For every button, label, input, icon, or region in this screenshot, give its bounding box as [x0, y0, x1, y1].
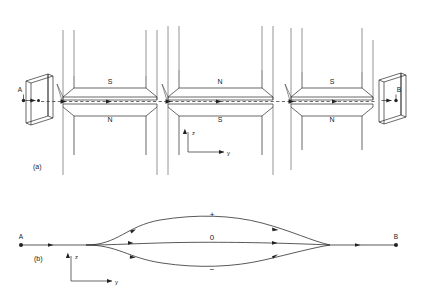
detector-plate-b: [379, 73, 406, 124]
panel-b-start-label: A: [19, 233, 24, 240]
magnet-1-bottom-pole-label: N: [107, 116, 112, 123]
panel-a-detector-label: B: [397, 86, 401, 93]
magnet-2-top-pole-label: N: [217, 78, 222, 85]
panel-b-label-plus: +: [210, 210, 215, 219]
figure-svg: A S N: [0, 0, 422, 296]
panel-b-trajectory-plus: [86, 216, 330, 245]
panel-b-trajectory-minus: [86, 245, 330, 266]
panel-b-axis-y-label: y: [115, 279, 118, 285]
panel-a-caption: (a): [33, 163, 42, 171]
panel-b-trajectory-zero: [86, 241, 330, 245]
panel-a-source-label: A: [18, 86, 23, 93]
panel-b-caption: (b): [34, 255, 43, 263]
panel-a-axis-z-label: z: [192, 130, 195, 136]
figure-root: A S N: [0, 0, 422, 296]
panel-b-group: A B +: [19, 210, 398, 285]
magnet-2-bottom-pole-label: S: [218, 116, 223, 123]
panel-b-end-label: B: [394, 233, 398, 240]
magnet-3-top-pole-label: S: [330, 78, 335, 85]
panel-b-label-minus: −: [210, 265, 215, 274]
panel-a-group: A S N: [18, 26, 406, 175]
panel-b-label-zero: 0: [210, 233, 215, 242]
magnet-3: [285, 28, 373, 170]
magnet-1-top-pole-label: S: [108, 78, 113, 85]
panel-a-axis-y-label: y: [227, 150, 230, 156]
magnet-3-bottom-pole-label: N: [329, 116, 334, 123]
panel-b-common-stems: [21, 243, 396, 247]
panel-b-axis-z-label: z: [75, 254, 78, 260]
